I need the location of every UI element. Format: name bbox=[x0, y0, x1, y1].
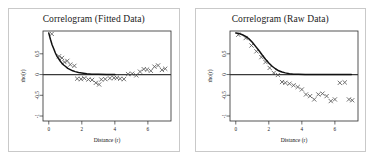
x-axis-title: Distance (r) bbox=[280, 137, 307, 144]
y-axis-title: rho(r) bbox=[20, 69, 27, 82]
x-tick-label: 4 bbox=[114, 126, 117, 132]
y-tick-label: 0.5 bbox=[221, 50, 227, 57]
y-tick-label: -0.5 bbox=[34, 91, 40, 100]
chart-panel-raw: Correlogram (Raw Data) 02460.50-0.5-1Dis… bbox=[187, 0, 373, 159]
x-tick-label: 0 bbox=[234, 126, 237, 132]
scatter-series bbox=[50, 32, 168, 87]
x-tick-label: 4 bbox=[300, 126, 303, 132]
y-tick-label: 0.5 bbox=[34, 50, 40, 57]
y-tick-label: 0 bbox=[34, 73, 40, 76]
x-tick-label: 6 bbox=[333, 126, 336, 132]
x-axis-title: Distance (r) bbox=[94, 137, 121, 144]
y-tick-label: -1 bbox=[34, 113, 40, 118]
plot-frame bbox=[230, 31, 358, 121]
y-tick-label: -1 bbox=[221, 113, 227, 118]
y-axis-title: rho(r) bbox=[207, 69, 214, 82]
chart-panel-fitted: Correlogram (Fitted Data) 02460.50-0.5-1… bbox=[0, 0, 187, 159]
correlogram-svg-fitted: 02460.50-0.5-1Distance (r)rho(r) bbox=[9, 9, 180, 152]
panel-border-fitted: Correlogram (Fitted Data) 02460.50-0.5-1… bbox=[8, 8, 180, 152]
correlogram-svg-raw: 02460.50-0.5-1Distance (r)rho(r) bbox=[196, 9, 367, 152]
plot-frame bbox=[43, 31, 171, 121]
plot-area-fitted: 02460.50-0.5-1Distance (r)rho(r) bbox=[9, 9, 179, 151]
fitted-curve bbox=[49, 33, 115, 74]
fitted-curve bbox=[235, 33, 351, 74]
plot-area-raw: 02460.50-0.5-1Distance (r)rho(r) bbox=[196, 9, 366, 151]
figure-root: Correlogram (Fitted Data) 02460.50-0.5-1… bbox=[0, 0, 373, 159]
x-tick-label: 6 bbox=[147, 126, 150, 132]
y-tick-label: 0 bbox=[221, 73, 227, 76]
panel-border-raw: Correlogram (Raw Data) 02460.50-0.5-1Dis… bbox=[195, 8, 367, 152]
x-tick-label: 2 bbox=[81, 126, 84, 132]
x-tick-label: 2 bbox=[267, 126, 270, 132]
y-tick-label: -0.5 bbox=[221, 91, 227, 100]
x-tick-label: 0 bbox=[47, 126, 50, 132]
